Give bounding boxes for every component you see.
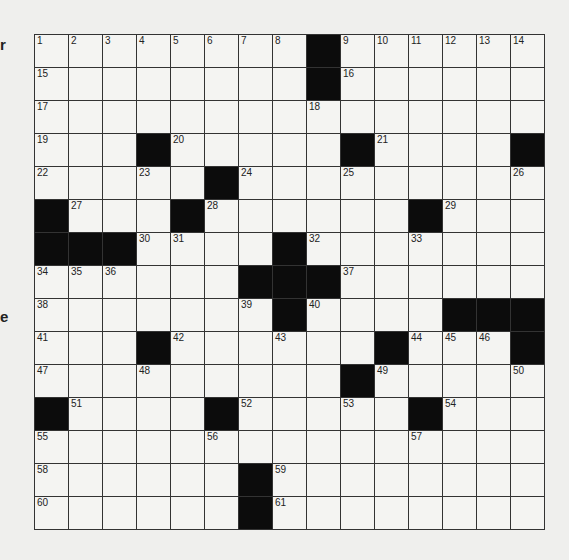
- grid-cell[interactable]: [171, 497, 205, 530]
- grid-cell[interactable]: 20: [171, 134, 205, 167]
- grid-cell[interactable]: 34: [35, 266, 69, 299]
- grid-cell[interactable]: [511, 497, 545, 530]
- grid-cell[interactable]: [477, 68, 511, 101]
- grid-cell[interactable]: 11: [409, 35, 443, 68]
- grid-cell[interactable]: 37: [341, 266, 375, 299]
- grid-cell[interactable]: 44: [409, 332, 443, 365]
- grid-cell[interactable]: [103, 464, 137, 497]
- grid-cell[interactable]: [103, 200, 137, 233]
- grid-cell[interactable]: [375, 299, 409, 332]
- grid-cell[interactable]: [205, 299, 239, 332]
- grid-cell[interactable]: [443, 101, 477, 134]
- grid-cell[interactable]: 2: [69, 35, 103, 68]
- grid-cell[interactable]: 32: [307, 233, 341, 266]
- grid-cell[interactable]: [409, 101, 443, 134]
- grid-cell[interactable]: [477, 365, 511, 398]
- grid-cell[interactable]: [137, 497, 171, 530]
- grid-cell[interactable]: [103, 398, 137, 431]
- grid-cell[interactable]: [137, 398, 171, 431]
- grid-cell[interactable]: [239, 200, 273, 233]
- grid-cell[interactable]: 23: [137, 167, 171, 200]
- grid-cell[interactable]: [103, 68, 137, 101]
- grid-cell[interactable]: [307, 200, 341, 233]
- grid-cell[interactable]: [137, 266, 171, 299]
- grid-cell[interactable]: [477, 431, 511, 464]
- grid-cell[interactable]: [511, 464, 545, 497]
- grid-cell[interactable]: [477, 101, 511, 134]
- grid-cell[interactable]: [273, 167, 307, 200]
- grid-cell[interactable]: [137, 101, 171, 134]
- grid-cell[interactable]: [205, 365, 239, 398]
- grid-cell[interactable]: [273, 365, 307, 398]
- grid-cell[interactable]: 60: [35, 497, 69, 530]
- grid-cell[interactable]: [103, 365, 137, 398]
- grid-cell[interactable]: [307, 398, 341, 431]
- grid-cell[interactable]: [69, 134, 103, 167]
- grid-cell[interactable]: [239, 134, 273, 167]
- grid-cell[interactable]: [477, 134, 511, 167]
- grid-cell[interactable]: [239, 365, 273, 398]
- grid-cell[interactable]: [239, 332, 273, 365]
- grid-cell[interactable]: [171, 299, 205, 332]
- grid-cell[interactable]: [205, 134, 239, 167]
- grid-cell[interactable]: [511, 68, 545, 101]
- grid-cell[interactable]: [137, 200, 171, 233]
- grid-cell[interactable]: [205, 68, 239, 101]
- grid-cell[interactable]: 36: [103, 266, 137, 299]
- grid-cell[interactable]: [171, 431, 205, 464]
- grid-cell[interactable]: [307, 134, 341, 167]
- grid-cell[interactable]: [103, 134, 137, 167]
- grid-cell[interactable]: [137, 68, 171, 101]
- grid-cell[interactable]: 57: [409, 431, 443, 464]
- grid-cell[interactable]: 3: [103, 35, 137, 68]
- grid-cell[interactable]: [511, 266, 545, 299]
- grid-cell[interactable]: [409, 365, 443, 398]
- grid-cell[interactable]: [69, 101, 103, 134]
- grid-cell[interactable]: [69, 431, 103, 464]
- grid-cell[interactable]: 52: [239, 398, 273, 431]
- grid-cell[interactable]: 8: [273, 35, 307, 68]
- grid-cell[interactable]: 49: [375, 365, 409, 398]
- grid-cell[interactable]: [375, 200, 409, 233]
- grid-cell[interactable]: [103, 167, 137, 200]
- grid-cell[interactable]: [69, 332, 103, 365]
- grid-cell[interactable]: [171, 101, 205, 134]
- grid-cell[interactable]: [375, 431, 409, 464]
- grid-cell[interactable]: [205, 233, 239, 266]
- grid-cell[interactable]: 25: [341, 167, 375, 200]
- grid-cell[interactable]: [205, 101, 239, 134]
- grid-cell[interactable]: 41: [35, 332, 69, 365]
- grid-cell[interactable]: [477, 464, 511, 497]
- grid-cell[interactable]: 16: [341, 68, 375, 101]
- grid-cell[interactable]: [341, 299, 375, 332]
- grid-cell[interactable]: [409, 68, 443, 101]
- grid-cell[interactable]: [307, 431, 341, 464]
- grid-cell[interactable]: 13: [477, 35, 511, 68]
- grid-cell[interactable]: 28: [205, 200, 239, 233]
- grid-cell[interactable]: [205, 464, 239, 497]
- grid-cell[interactable]: [409, 464, 443, 497]
- grid-cell[interactable]: 53: [341, 398, 375, 431]
- grid-cell[interactable]: 15: [35, 68, 69, 101]
- grid-cell[interactable]: [477, 266, 511, 299]
- grid-cell[interactable]: [239, 233, 273, 266]
- grid-cell[interactable]: [273, 101, 307, 134]
- grid-cell[interactable]: [443, 68, 477, 101]
- grid-cell[interactable]: [443, 233, 477, 266]
- grid-cell[interactable]: [511, 431, 545, 464]
- grid-cell[interactable]: 27: [69, 200, 103, 233]
- grid-cell[interactable]: [205, 332, 239, 365]
- grid-cell[interactable]: [443, 266, 477, 299]
- grid-cell[interactable]: [103, 431, 137, 464]
- grid-cell[interactable]: 59: [273, 464, 307, 497]
- grid-cell[interactable]: [307, 464, 341, 497]
- grid-cell[interactable]: [239, 101, 273, 134]
- grid-cell[interactable]: [477, 398, 511, 431]
- grid-cell[interactable]: 9: [341, 35, 375, 68]
- grid-cell[interactable]: [273, 398, 307, 431]
- grid-cell[interactable]: [443, 134, 477, 167]
- grid-cell[interactable]: [375, 464, 409, 497]
- grid-cell[interactable]: [443, 365, 477, 398]
- grid-cell[interactable]: [409, 299, 443, 332]
- grid-cell[interactable]: [375, 101, 409, 134]
